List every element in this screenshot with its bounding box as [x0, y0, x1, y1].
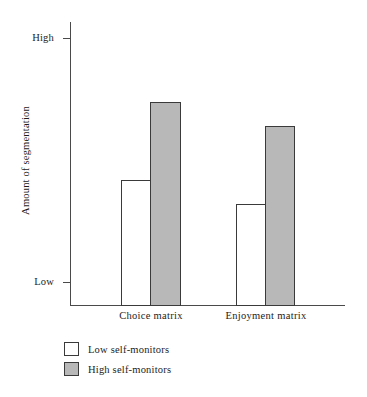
gray-square-swatch-icon	[64, 362, 79, 376]
y-axis-tick-label-high: High	[8, 32, 54, 43]
bar-enjoyment-high-self-monitors	[265, 126, 295, 306]
legend-item-low-self-monitors: Low self-monitors	[64, 339, 171, 359]
bar-chart-figure: High Low Amount of segmentation Choice m…	[0, 0, 367, 397]
bar-choice-low-self-monitors	[121, 180, 151, 306]
y-axis-tick-label-low: Low	[8, 276, 54, 287]
y-axis-tick-high	[63, 38, 71, 39]
white-square-swatch-icon	[64, 342, 79, 356]
legend-item-high-self-monitors: High self-monitors	[64, 359, 171, 379]
y-axis-title: Amount of segmentation	[20, 81, 31, 241]
chart-legend: Low self-monitors High self-monitors	[64, 339, 171, 379]
bar-choice-high-self-monitors	[150, 102, 181, 306]
y-axis-line	[70, 22, 71, 306]
x-axis-category-label-enjoyment: Enjoyment matrix	[211, 310, 321, 321]
y-axis-tick-low	[63, 282, 71, 283]
x-axis-category-label-choice: Choice matrix	[101, 310, 201, 321]
legend-label-low-self-monitors: Low self-monitors	[88, 344, 169, 355]
bar-enjoyment-low-self-monitors	[236, 204, 266, 306]
x-axis-line	[70, 305, 345, 306]
legend-label-high-self-monitors: High self-monitors	[88, 364, 171, 375]
